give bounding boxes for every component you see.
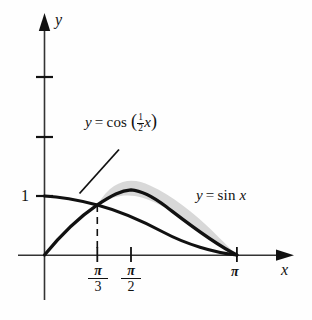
sine-label-equals: = — [203, 187, 218, 203]
x-tick-label-pi: π — [231, 264, 239, 280]
figure-area-between-curves: y x 1 π 3 π 2 π y=cos (12x) y=sin x — [0, 0, 312, 320]
x-tick-label-pi-over-2-denominator: 2 — [121, 278, 141, 294]
cosine-label-lhs: y — [85, 114, 92, 130]
x-axis-arrowhead — [276, 250, 294, 261]
sine-label-lhs: y — [196, 187, 203, 203]
plot-canvas — [0, 0, 312, 320]
x-tick-label-pi-over-3-denominator: 3 — [88, 278, 108, 294]
cosine-label-close-paren: ) — [151, 111, 157, 131]
cosine-label-function: cos — [107, 114, 128, 130]
sine-label-argument: x — [240, 187, 247, 203]
cosine-curve-label: y=cos (12x) — [85, 112, 157, 134]
sine-label-function: sin — [218, 187, 236, 203]
sine-curve-label: y=sin x — [196, 188, 246, 203]
x-tick-label-pi-over-2-numerator: π — [121, 264, 141, 278]
y-axis-arrowhead — [39, 13, 50, 31]
y-tick-label-one: 1 — [21, 187, 29, 205]
y-axis-label: y — [55, 12, 62, 28]
cosine-label-equals: = — [92, 114, 107, 130]
x-tick-label-pi-over-3-numerator: π — [88, 264, 108, 278]
x-axis-label: x — [281, 262, 288, 278]
x-tick-label-pi-over-2: π 2 — [121, 264, 141, 295]
x-tick-label-pi-over-3: π 3 — [88, 264, 108, 295]
